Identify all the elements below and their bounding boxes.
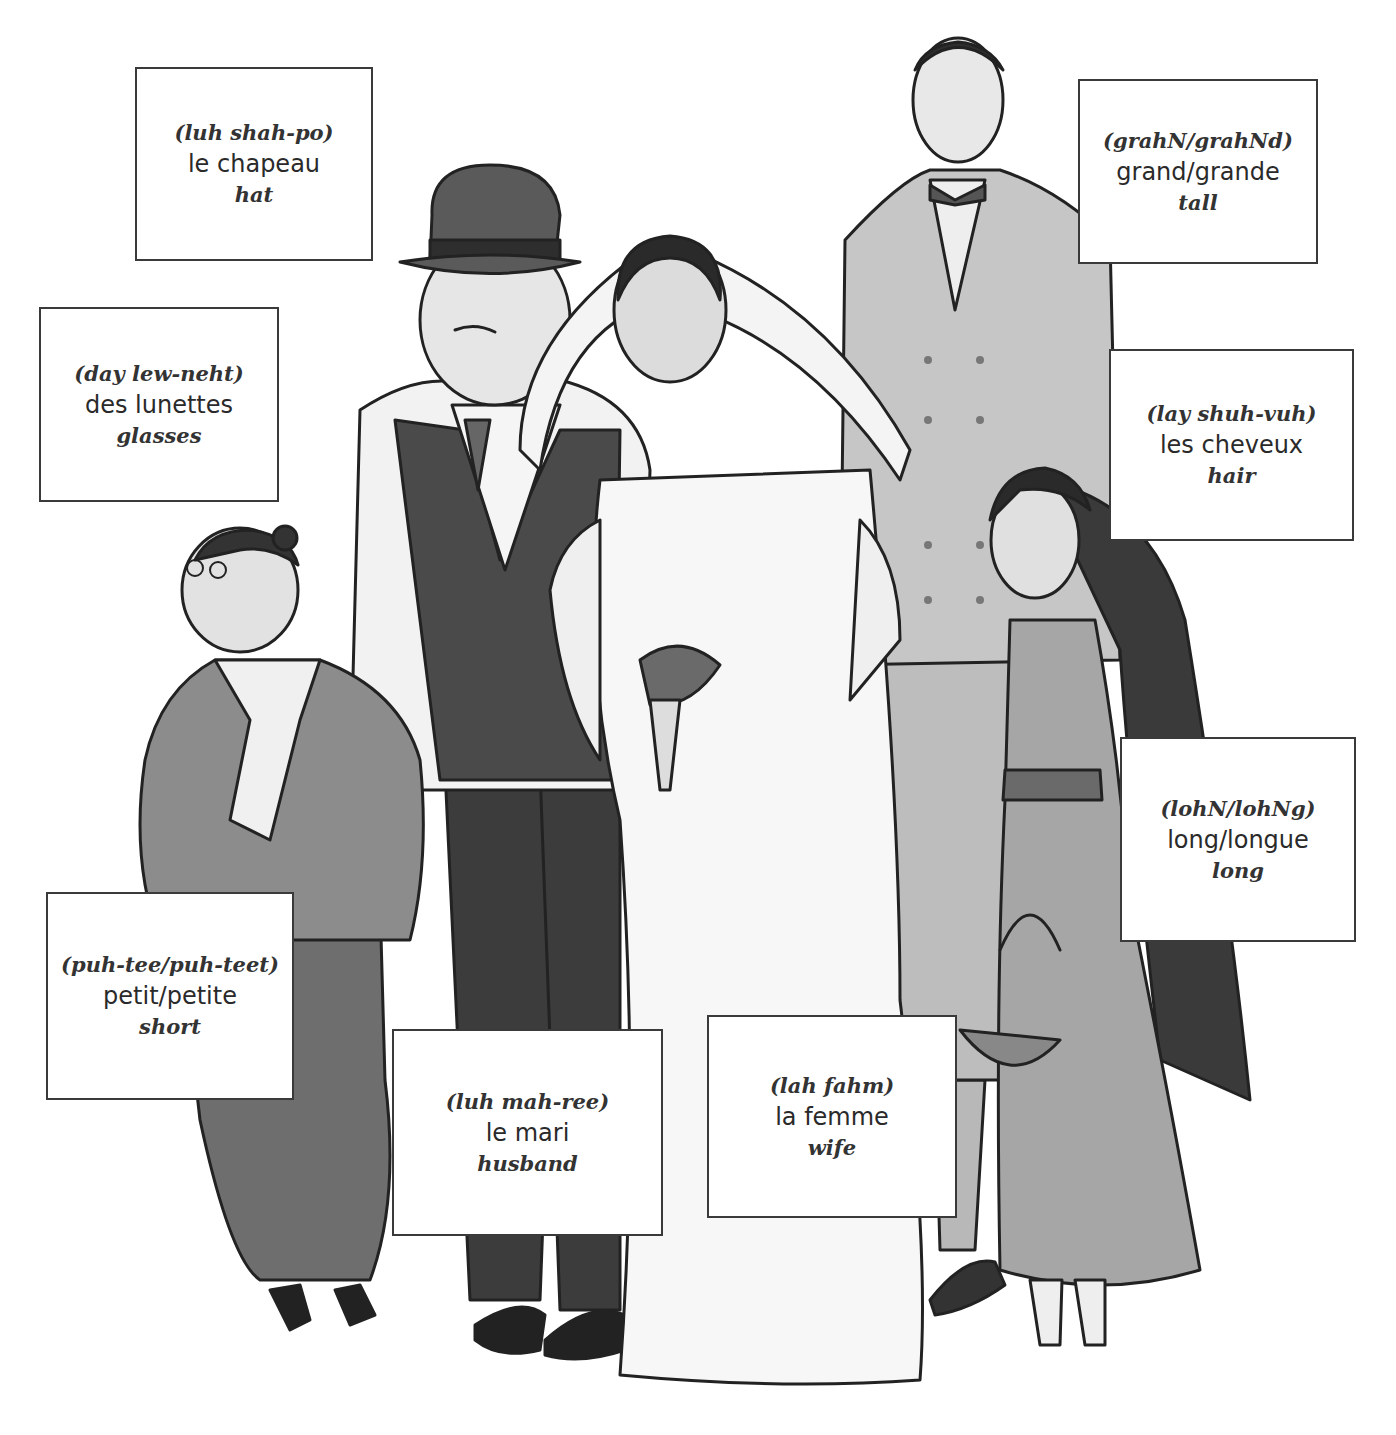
- label-box-long: (lohN/lohNg) long/longue long: [1120, 737, 1356, 942]
- label-box-short: (puh-tee/puh-teet) petit/petite short: [46, 892, 294, 1100]
- french-word: des lunettes: [85, 389, 233, 421]
- label-box-hair: (lay shuh-vuh) les cheveux hair: [1109, 349, 1354, 541]
- label-box-tall: (grahN/grahNd) grand/grande tall: [1078, 79, 1318, 264]
- french-word: le chapeau: [188, 148, 320, 180]
- english-translation: glasses: [116, 421, 201, 451]
- pronunciation-text: (day lew-neht): [74, 359, 243, 389]
- english-translation: short: [139, 1012, 201, 1042]
- french-word: long/longue: [1167, 824, 1309, 856]
- pronunciation-text: (puh-tee/puh-teet): [61, 950, 279, 980]
- label-box-wife: (lah fahm) la femme wife: [707, 1015, 957, 1218]
- english-translation: long: [1212, 856, 1264, 886]
- english-translation: hair: [1208, 461, 1256, 491]
- pronunciation-text: (lohN/lohNg): [1160, 794, 1315, 824]
- label-box-husband: (luh mah-ree) le mari husband: [392, 1029, 663, 1236]
- pronunciation-text: (grahN/grahNd): [1103, 126, 1293, 156]
- french-word: petit/petite: [103, 980, 237, 1012]
- pronunciation-text: (luh mah-ree): [446, 1087, 609, 1117]
- french-word: les cheveux: [1160, 429, 1303, 461]
- english-translation: husband: [477, 1149, 578, 1179]
- label-box-glasses: (day lew-neht) des lunettes glasses: [39, 307, 279, 502]
- french-word: la femme: [775, 1101, 889, 1133]
- pronunciation-text: (luh shah-po): [174, 118, 333, 148]
- english-translation: tall: [1178, 188, 1217, 218]
- french-word: grand/grande: [1116, 156, 1279, 188]
- french-word: le mari: [486, 1117, 570, 1149]
- english-translation: hat: [235, 180, 274, 210]
- pronunciation-text: (lah fahm): [770, 1071, 894, 1101]
- label-box-hat: (luh shah-po) le chapeau hat: [135, 67, 373, 261]
- english-translation: wife: [808, 1133, 856, 1163]
- pronunciation-text: (lay shuh-vuh): [1146, 399, 1316, 429]
